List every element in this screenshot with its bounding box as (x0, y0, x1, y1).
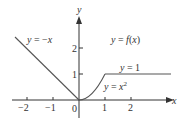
tick-label-x-neg2: −2 (18, 102, 29, 113)
annotation-x-squared: y = x2 (103, 80, 128, 92)
function-graph: −2 −1 0 1 2 1 2 y x y = −x y = f(x) y = … (0, 0, 179, 122)
y-ticks (79, 48, 83, 74)
tick-label-x-1: 1 (102, 102, 107, 113)
x-axis-label: x (171, 95, 177, 106)
tick-label-y-1: 1 (72, 69, 77, 80)
tick-label-x-0: 0 (72, 103, 77, 114)
curve-x-squared (79, 74, 105, 100)
annotation-y-1: y = 1 (119, 62, 140, 73)
curve-neg-x (15, 37, 79, 100)
y-axis-arrow-icon (76, 16, 82, 24)
y-axis-label: y (76, 4, 82, 15)
tick-label-y-2: 2 (72, 43, 77, 54)
annotation-neg-x: y = −x (26, 34, 53, 45)
tick-label-x-neg1: −1 (45, 102, 56, 113)
annotation-fx: y = f(x) (110, 34, 140, 46)
tick-label-x-2: 2 (128, 102, 133, 113)
